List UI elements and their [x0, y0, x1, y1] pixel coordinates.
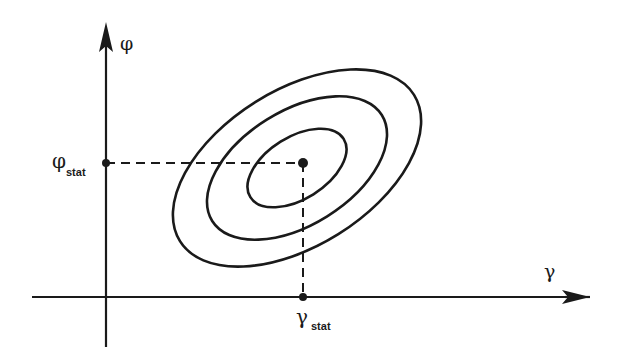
x-axis: [32, 290, 590, 304]
gamma-stat-label: γ stat: [296, 305, 331, 332]
phi-stat-label: φ stat: [52, 149, 86, 178]
phi-stat-subscript: stat: [66, 166, 86, 178]
gamma-stat-marker: [299, 293, 307, 301]
y-axis: [99, 22, 113, 347]
contour-middle: [182, 67, 412, 270]
y-axis-label: φ: [120, 32, 133, 54]
contour-outer: [139, 29, 456, 308]
phi-stat-marker: [102, 159, 110, 167]
center-point: [298, 158, 308, 168]
phi-stat-symbol: φ: [52, 149, 66, 173]
contour-diagram: φ γ φ stat γ stat: [0, 0, 618, 357]
x-axis-label: γ: [544, 260, 555, 282]
gamma-stat-symbol: γ: [296, 305, 308, 329]
gamma-stat-subscript: stat: [311, 320, 331, 332]
